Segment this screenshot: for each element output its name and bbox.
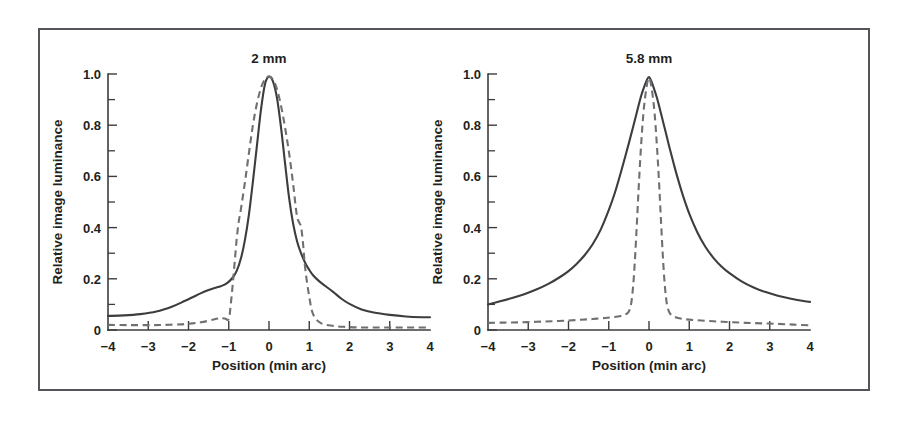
x-tick-label: 1 — [306, 339, 313, 354]
chart-panel-2mm: 2 mm −4−3−2−101234 00.20.40.60.81.0 Posi… — [40, 30, 456, 389]
data-curves — [488, 77, 810, 325]
x-tick-label: −4 — [481, 339, 497, 354]
x-tick-label: 4 — [806, 339, 814, 354]
x-tick-label: −4 — [101, 339, 117, 354]
y-tick-label: 1.0 — [463, 67, 481, 82]
x-tick-label: −3 — [141, 339, 156, 354]
s-curve-solid — [488, 77, 810, 304]
x-tick-label: −1 — [221, 339, 236, 354]
figure-frame: 2 mm −4−3−2−101234 00.20.40.60.81.0 Posi… — [38, 28, 870, 391]
y-tick-label: 0.2 — [463, 272, 481, 287]
x-tick-label: 0 — [645, 339, 652, 354]
y-tick-label: 0.8 — [83, 118, 101, 133]
y-tick-label: 0.4 — [83, 221, 102, 236]
chart-panel-58mm: 5.8 mm −4−3−2−101234 00.20.40.60.81.0 Po… — [420, 30, 836, 389]
y-tick-labels: 00.20.40.60.81.0 — [83, 67, 102, 338]
y-axis-title: Relative image luminance — [50, 119, 65, 285]
y-tick-label: 0.6 — [463, 169, 481, 184]
x-tick-label: −3 — [521, 339, 536, 354]
x-tick-label: 2 — [726, 339, 733, 354]
x-tick-label: 0 — [265, 339, 272, 354]
y-axis — [108, 74, 117, 330]
y-tick-label: 1.0 — [83, 67, 101, 82]
chart-svg-58mm: 5.8 mm −4−3−2−101234 00.20.40.60.81.0 Po… — [420, 30, 836, 389]
y-tick-label: 0.6 — [83, 169, 101, 184]
x-tick-label: 1 — [686, 339, 693, 354]
panel-title: 2 mm — [251, 51, 286, 66]
x-tick-label: −2 — [181, 339, 196, 354]
y-tick-label: 0.2 — [83, 272, 101, 287]
y-tick-label: 0.8 — [463, 118, 481, 133]
x-axis-title: Position (min arc) — [212, 358, 326, 373]
x-tick-label: 3 — [766, 339, 773, 354]
s-curve-dashed — [488, 78, 810, 326]
s-curve-dashed — [108, 77, 430, 328]
panel-title: 5.8 mm — [626, 51, 673, 66]
x-tick-label: −2 — [561, 339, 576, 354]
y-tick-label: 0.4 — [463, 221, 482, 236]
x-tick-label: 2 — [346, 339, 353, 354]
y-tick-label: 0 — [94, 323, 101, 338]
chart-svg-2mm: 2 mm −4−3−2−101234 00.20.40.60.81.0 Posi… — [40, 30, 456, 389]
x-tick-label: −1 — [601, 339, 616, 354]
y-tick-label: 0 — [474, 323, 481, 338]
x-tick-label: 3 — [386, 339, 393, 354]
y-axis — [488, 74, 497, 330]
x-tick-labels: −4−3−2−101234 — [481, 339, 815, 354]
figure-root: 2 mm −4−3−2−101234 00.20.40.60.81.0 Posi… — [0, 0, 906, 421]
y-tick-labels: 00.20.40.60.81.0 — [463, 67, 482, 338]
data-curves — [108, 77, 430, 328]
s-curve-solid — [108, 77, 430, 318]
y-axis-title: Relative image luminance — [430, 119, 445, 285]
x-tick-labels: −4−3−2−101234 — [101, 339, 435, 354]
x-axis-title: Position (min arc) — [592, 358, 706, 373]
